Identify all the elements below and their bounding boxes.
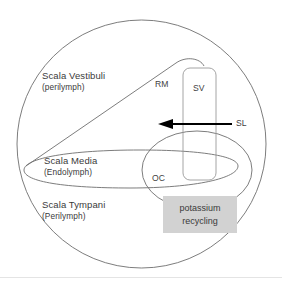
label-scala-media-name: Scala Media — [44, 155, 97, 167]
label-organ-of-corti: OC — [152, 173, 165, 184]
diagram-canvas — [0, 0, 282, 288]
potassium-recycling-callout: potassium recycling — [163, 196, 237, 233]
label-stria-vascularis: SV — [193, 83, 205, 94]
label-reissners-membrane: RM — [155, 79, 169, 90]
label-scala-media: Scala Media (Endolymph) — [44, 155, 97, 178]
label-scala-vestibuli: Scala Vestibuli (perilymph) — [42, 70, 105, 93]
bottom-divider — [0, 277, 282, 278]
label-scala-vestibuli-name: Scala Vestibuli — [42, 70, 105, 82]
cochlea-diagram: Scala Vestibuli (perilymph) Scala Media … — [0, 0, 282, 288]
label-spiral-ligament: SL — [236, 118, 247, 129]
potassium-recycling-line-2: recycling — [182, 215, 218, 227]
label-scala-tympani-fluid: (Perilymph) — [42, 211, 105, 222]
label-scala-vestibuli-fluid: (perilymph) — [42, 82, 105, 93]
label-scala-tympani-name: Scala Tympani — [42, 199, 105, 211]
label-scala-media-fluid: (Endolymph) — [44, 167, 97, 178]
label-scala-tympani: Scala Tympani (Perilymph) — [42, 199, 105, 222]
potassium-recycling-line-1: potassium — [179, 202, 220, 214]
potassium-flow-arrow — [158, 119, 232, 129]
